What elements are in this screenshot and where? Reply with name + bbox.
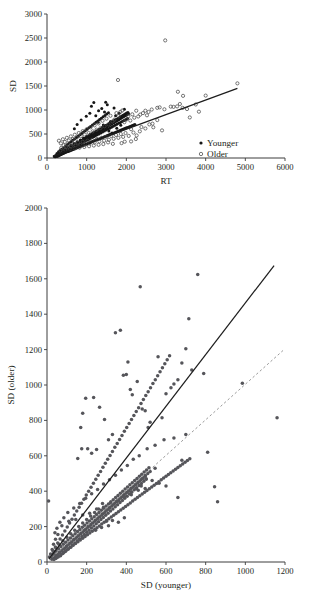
data-point (126, 464, 130, 468)
data-point (176, 90, 179, 93)
data-point (137, 115, 140, 118)
data-point (73, 513, 77, 517)
data-point (150, 108, 153, 111)
data-point (107, 111, 110, 114)
data-point (116, 78, 119, 81)
data-point (132, 458, 136, 462)
data-point (87, 489, 91, 493)
data-point (134, 137, 137, 140)
x-tick-label: 4000 (197, 162, 214, 172)
data-point (180, 458, 184, 462)
data-point (77, 505, 81, 509)
data-point (119, 124, 122, 127)
data-point (126, 360, 130, 364)
data-point (79, 426, 83, 430)
data-point (92, 396, 96, 400)
data-point (115, 127, 118, 130)
y-tick-label: 1600 (25, 274, 42, 284)
data-point (115, 112, 118, 115)
data-point (52, 543, 56, 547)
data-point (153, 466, 157, 470)
x-tick-label: 1200 (276, 566, 293, 576)
data-point (55, 527, 59, 531)
data-point (67, 520, 71, 524)
data-point (127, 134, 130, 137)
data-point (75, 509, 79, 513)
data-point (135, 410, 139, 414)
data-point (106, 103, 109, 106)
data-point (111, 433, 115, 437)
y-tick-label: 400 (29, 486, 42, 496)
data-point (61, 138, 64, 141)
x-tick-label: 0 (45, 162, 49, 172)
data-point (97, 143, 100, 146)
data-point (123, 495, 127, 499)
data-point (140, 407, 144, 411)
data-point (85, 493, 89, 497)
y-tick-label: 2500 (25, 33, 42, 43)
data-point (47, 499, 51, 503)
data-point (188, 457, 192, 461)
data-point (163, 362, 167, 366)
data-point (118, 438, 122, 442)
data-point (56, 533, 60, 537)
data-point (154, 378, 158, 382)
data-point (107, 524, 111, 528)
data-point (130, 418, 134, 422)
data-point (101, 466, 105, 470)
data-point (147, 110, 150, 113)
data-point (168, 354, 172, 358)
data-point (129, 119, 132, 122)
data-point (156, 374, 160, 378)
data-point (117, 136, 120, 139)
data-point (150, 479, 154, 483)
data-point (107, 130, 110, 133)
y-tick-label: 3000 (25, 9, 42, 19)
data-point (88, 112, 91, 115)
data-point (152, 126, 155, 129)
legend-marker-younger (199, 141, 202, 144)
data-point (112, 137, 115, 140)
data-point (61, 533, 65, 537)
data-point (144, 394, 148, 398)
y-tick-label: 200 (29, 522, 42, 532)
data-point (131, 113, 134, 116)
data-point (187, 317, 191, 321)
data-point (57, 139, 60, 142)
data-point (163, 108, 166, 111)
x-tick-label: 1000 (78, 162, 95, 172)
data-point (135, 380, 139, 384)
data-point (148, 420, 152, 424)
data-point (129, 140, 132, 143)
data-point (76, 123, 79, 126)
data-point (180, 361, 184, 365)
legend-label: Older (207, 149, 228, 159)
data-point (100, 526, 104, 530)
plot-area-bottom: 0200400600800100012001400160018002000020… (25, 203, 294, 576)
data-point (149, 386, 153, 390)
data-point (236, 82, 239, 85)
x-tick-label: 1000 (237, 566, 254, 576)
data-point (103, 418, 107, 422)
data-point (90, 105, 93, 108)
data-point (124, 131, 127, 134)
x-tick-label: 5000 (237, 162, 254, 172)
legend: YoungerOlder (199, 138, 238, 159)
data-point (119, 328, 123, 332)
data-point (125, 373, 129, 377)
y-tick-label: 1800 (25, 238, 42, 248)
data-point (125, 426, 129, 430)
data-point (111, 450, 115, 454)
data-point (88, 512, 92, 516)
data-point (65, 525, 69, 529)
x-tick-label: 2000 (118, 162, 135, 172)
data-point (103, 110, 106, 113)
data-point (94, 528, 98, 532)
data-point (101, 119, 104, 122)
y-tick-label: 1000 (25, 105, 42, 115)
x-tick-label: 3000 (157, 162, 174, 172)
data-point (165, 358, 169, 362)
data-point (156, 118, 159, 121)
data-point (172, 382, 176, 386)
data-point (99, 470, 103, 474)
